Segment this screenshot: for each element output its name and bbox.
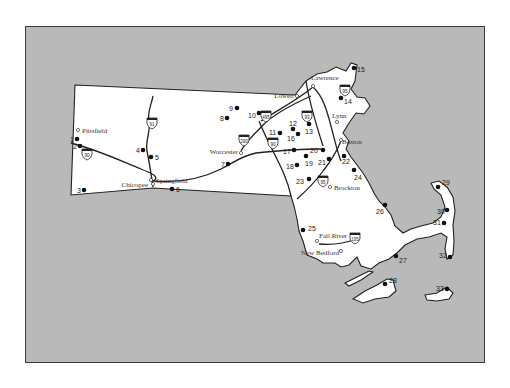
city-marker-icon [311,84,314,87]
interstate-number: 90 [84,153,90,158]
site-dot-icon [307,122,312,127]
site-number: 18 [286,163,294,170]
site-dot-icon [301,228,306,233]
city-pittsfield: Pittsfield [76,127,107,135]
site-marker: 33 [436,285,449,292]
city-marker-icon [151,182,154,185]
site-number: 22 [342,158,350,165]
interstate-number: 91 [149,122,155,127]
map-frame: 909129090495939595195 PittsfieldChicopee… [25,26,485,363]
site-number: 2 [73,143,77,150]
site-dot-icon [225,116,230,121]
site-dot-icon [82,188,87,193]
city-new-bedford: New Bedford [301,249,343,257]
site-dot-icon [339,96,344,101]
site-number: 8 [220,115,224,122]
site-number: 28 [389,277,397,284]
site-number: 7 [221,161,225,168]
site-number: 31 [433,219,441,226]
site-number: 29 [442,179,450,186]
interstate-number: 90 [270,142,276,147]
site-dot-icon [296,132,301,137]
city-label: Lowell [274,92,294,100]
site-dot-icon [75,137,80,142]
site-dot-icon [292,148,297,153]
site-number: 30 [437,208,445,215]
site-number: 1 [70,136,74,143]
city-label: Springfield [156,177,188,185]
site-dot-icon [78,144,83,149]
city-brockton: Brockton [328,184,360,192]
site-number: 3 [77,187,81,194]
site-dot-icon [352,66,357,71]
site-number: 32 [439,252,447,259]
site-dot-icon [383,203,388,208]
site-number: 10 [248,112,256,119]
site-dot-icon [327,157,332,162]
city-marker-icon [339,249,342,252]
interstate-number: 290 [240,139,248,144]
site-dot-icon [394,254,399,259]
state-outline [71,63,455,269]
site-dot-icon [141,148,146,153]
site-dot-icon [352,168,357,173]
site-number: 27 [399,257,407,264]
site-dot-icon [295,163,300,168]
interstate-number: 495 [262,115,270,120]
site-dot-icon [226,162,231,167]
site-dot-icon [436,185,441,190]
site-number: 15 [357,66,365,73]
site-number: 6 [176,186,180,193]
city-label: Worcester [210,148,239,156]
elizabeth-islands [345,271,373,286]
city-label: Brockton [334,184,361,192]
site-dot-icon [448,255,453,260]
city-springfield: Springfield [151,177,188,186]
city-marker-icon [328,185,331,188]
city-label: New Bedford [301,249,339,257]
site-number: 16 [287,135,295,142]
site-marker: 27 [394,254,407,264]
city-boston: Boston [339,138,362,146]
city-label: Chicopee [122,181,148,189]
interstate-number: 195 [351,237,359,242]
site-number: 5 [155,154,159,161]
site-number: 19 [305,160,313,167]
site-dot-icon [442,221,447,226]
site-number: 23 [296,178,304,185]
site-dot-icon [307,177,312,182]
city-label: Boston [342,138,362,146]
site-number: 33 [436,285,444,292]
city-marker-icon [76,128,79,131]
site-number: 17 [283,148,291,155]
site-number: 26 [376,208,384,215]
site-dot-icon [445,287,450,292]
site-number: 4 [136,147,140,154]
site-dot-icon [445,208,450,213]
site-number: 13 [305,128,313,135]
site-number: 11 [269,129,276,136]
site-number: 25 [308,225,316,232]
interstate-number: 93 [304,115,310,120]
site-number: 12 [289,120,297,127]
site-dot-icon [149,155,154,160]
site-dot-icon [278,131,283,136]
site-number: 9 [229,105,233,112]
city-label: Lynn [332,112,347,120]
site-dot-icon [321,148,326,153]
city-marker-icon [335,120,338,123]
city-marker-icon [239,151,242,154]
site-dot-icon [257,111,262,116]
site-dot-icon [383,282,388,287]
interstate-number: 95 [320,180,326,185]
city-worcester: Worcester [210,148,243,156]
site-number: 21 [318,159,326,166]
city-label: Pittsfield [82,127,108,135]
site-dot-icon [170,187,175,192]
city-label: Fall River [319,232,348,240]
site-dot-icon [235,106,240,111]
interstate-number: 95 [342,89,348,94]
site-number: 20 [310,147,318,154]
site-dot-icon [304,154,309,159]
massachusetts-map: 909129090495939595195 PittsfieldChicopee… [26,27,485,363]
